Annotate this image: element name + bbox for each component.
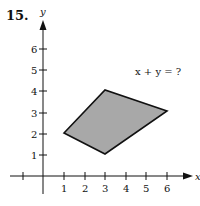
y-axis-label: y: [39, 6, 46, 17]
y-tick-label: 1: [31, 150, 37, 161]
coordinate-plane: x y 1 2 3 4 5 6 1 2 3 4 5 6 x + y = ?: [0, 0, 200, 206]
quadrilateral: [64, 90, 167, 154]
y-tick-label: 5: [31, 65, 37, 76]
x-tick-label: 4: [123, 183, 129, 194]
y-tick-label: 2: [31, 129, 37, 140]
x-tick-label: 2: [82, 183, 88, 194]
y-axis-arrow-icon: [40, 20, 47, 30]
x-tick-label: 1: [61, 183, 67, 194]
x-tick-label: 3: [102, 183, 108, 194]
x-tick-label: 6: [164, 183, 170, 194]
y-tick-label: 4: [31, 86, 37, 97]
y-tick-label: 6: [31, 44, 37, 55]
x-tick-label: 5: [143, 183, 149, 194]
question-text: x + y = ?: [135, 66, 181, 77]
x-axis-arrow-icon: [183, 173, 193, 180]
y-tick-label: 3: [31, 108, 37, 119]
x-axis-label: x: [195, 171, 200, 182]
